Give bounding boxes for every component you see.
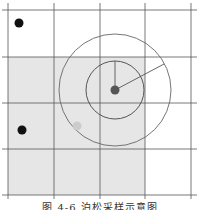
existing-sample-point [18, 126, 27, 135]
candidate-sample-point [73, 122, 82, 131]
poisson-sampling-diagram [0, 0, 200, 200]
figure-caption: 图 4-6 泊松采样示意图 [0, 199, 200, 210]
center-sample-point [111, 86, 120, 95]
existing-sample-point [15, 19, 24, 28]
